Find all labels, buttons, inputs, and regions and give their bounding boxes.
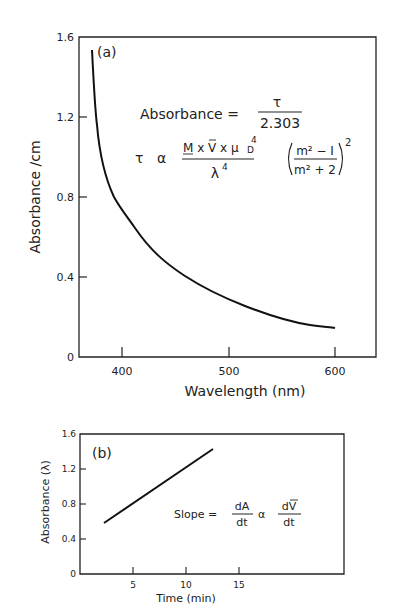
b-x-tick-5: 5 xyxy=(130,580,136,590)
eq2-prop: α xyxy=(157,150,166,166)
panel-b: 0 0.4 0.8 1.2 1.6 5 10 15 Time (min) Abs… xyxy=(39,429,344,605)
x-tick-600: 600 xyxy=(325,365,346,378)
eq1-lhs: Absorbance = xyxy=(140,106,239,122)
equation-tau: τ α M x V x μ D 4 λ 4 m² − I m² + 2 2 xyxy=(135,135,351,181)
slope-lhs: Slope = xyxy=(174,508,217,521)
y-axis-label: Absorbance /cm xyxy=(27,140,43,253)
eq2-tau: τ xyxy=(135,150,143,166)
panel-a-y-ticks: 0 0.4 0.8 1.2 1.6 xyxy=(57,31,88,364)
b-y-tick-0.8: 0.8 xyxy=(62,499,77,509)
y-tick-0.4: 0.4 xyxy=(57,271,75,284)
panel-a-x-ticks: 400 500 600 xyxy=(112,347,346,378)
panel-b-y-ticks: 0 0.4 0.8 1.2 1.6 xyxy=(62,429,86,579)
eq1-denominator: 2.303 xyxy=(260,115,300,131)
b-y-tick-0: 0 xyxy=(70,569,76,579)
eq2-den-sup: 4 xyxy=(222,162,228,172)
eq2-square: 2 xyxy=(345,137,351,148)
b-y-axis-label: Absorbance (λ) xyxy=(39,460,52,544)
absorbance-curve xyxy=(92,50,335,328)
b-y-tick-1.2: 1.2 xyxy=(62,464,76,474)
b-x-tick-15: 15 xyxy=(233,580,244,590)
panel-a-label: (a) xyxy=(97,44,117,60)
eq1-numerator: τ xyxy=(273,94,281,110)
slope-frac1-num: dA xyxy=(235,500,250,513)
slope-frac2-num: dV xyxy=(282,500,297,513)
eq2-m-numerator: m² − I xyxy=(296,144,334,158)
eq2-m-denominator: m² + 2 xyxy=(294,163,336,177)
x-axis-label: Wavelength (nm) xyxy=(185,383,306,399)
figure: 0 0.4 0.8 1.2 1.6 400 500 600 Wavelength… xyxy=(0,0,393,605)
panel-a-frame xyxy=(79,37,376,357)
eq2-sup-4: 4 xyxy=(251,135,257,145)
panel-a: 0 0.4 0.8 1.2 1.6 400 500 600 Wavelength… xyxy=(27,31,376,399)
b-y-tick-1.6: 1.6 xyxy=(62,429,77,439)
y-tick-0.8: 0.8 xyxy=(57,191,75,204)
b-x-tick-10: 10 xyxy=(180,580,192,590)
y-tick-0: 0 xyxy=(67,351,74,364)
x-tick-400: 400 xyxy=(112,365,133,378)
x-tick-500: 500 xyxy=(219,365,240,378)
eq2-numerator: M x V x μ xyxy=(183,141,239,155)
slope-frac2-den: dt xyxy=(283,516,295,529)
y-tick-1.6: 1.6 xyxy=(57,31,75,44)
slope-frac1-den: dt xyxy=(236,516,248,529)
panel-b-x-ticks: 5 10 15 xyxy=(130,567,245,590)
y-tick-1.2: 1.2 xyxy=(57,111,75,124)
equation-slope: Slope = dA dt α dV dt xyxy=(174,500,301,529)
b-y-tick-0.4: 0.4 xyxy=(62,534,77,544)
slope-prop: α xyxy=(258,508,265,521)
eq2-sub-d: D xyxy=(247,145,254,155)
eq2-denominator: λ xyxy=(211,165,219,181)
b-x-axis-label: Time (min) xyxy=(155,592,216,605)
equation-absorbance: Absorbance = τ 2.303 xyxy=(140,94,302,131)
panel-b-frame xyxy=(80,434,344,574)
panel-b-label: (b) xyxy=(92,445,112,461)
